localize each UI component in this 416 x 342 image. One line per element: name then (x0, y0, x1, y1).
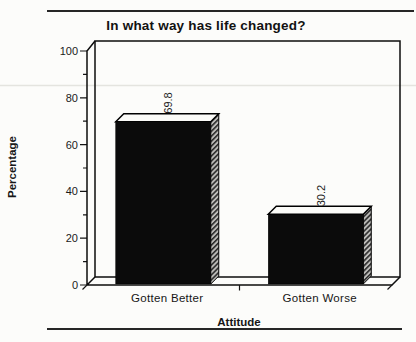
bar-front-face (116, 122, 211, 284)
scanned-chart-page: In what way has life changed? 100 80 60 … (0, 0, 416, 342)
y-tick-label: 0 (72, 279, 78, 291)
y-tick-label: 20 (66, 232, 78, 244)
category-label: Gotten Worse (283, 292, 357, 304)
bar-front-face (268, 214, 363, 284)
x-axis-title: Attitude (217, 316, 260, 328)
bar-chart-figure: In what way has life changed? 100 80 60 … (0, 0, 416, 342)
bar-side-face (211, 114, 219, 284)
bar-top-face (268, 206, 371, 214)
bar-value-label: 69.8 (162, 92, 174, 113)
x-axis-ticks (83, 285, 393, 291)
y-tick-label: 80 (66, 92, 78, 104)
chart-title: In what way has life changed? (106, 18, 305, 33)
y-tick-label: 100 (60, 45, 78, 57)
bar-group-gotten-worse: 30.2 Gotten Worse (268, 185, 371, 304)
y-tick-label: 60 (66, 139, 78, 151)
category-label: Gotten Better (131, 292, 203, 304)
y-axis-title: Percentage (6, 136, 18, 198)
bar-value-label: 30.2 (315, 185, 327, 206)
bar-side-face (363, 206, 371, 284)
y-tick-label: 40 (66, 185, 78, 197)
bar-top-face (116, 114, 219, 122)
bar-group-gotten-better: 69.8 Gotten Better (116, 92, 219, 304)
